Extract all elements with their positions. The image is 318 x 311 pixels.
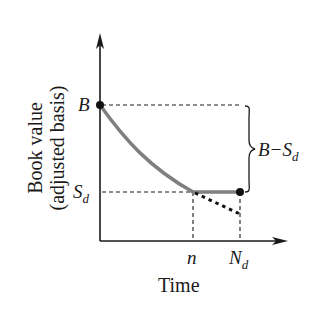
point-b: [96, 101, 104, 109]
y-tick-sd: Sd: [73, 181, 90, 206]
x-axis-label: Time: [158, 274, 200, 296]
point-nd: [236, 188, 244, 196]
brace-icon: [245, 106, 255, 192]
x-tick-n: n: [187, 247, 197, 268]
brace-label: B−Sd: [258, 139, 299, 164]
y-axis-label-line2: (adjusted basis): [46, 86, 69, 211]
continued-depreciation-line: [195, 193, 240, 214]
book-value-diagram: B Sd B−Sd n Nd Time Book value (adjusted…: [0, 0, 318, 311]
y-tick-b: B: [78, 94, 90, 115]
x-tick-nd: Nd: [228, 247, 249, 272]
book-value-curve: [100, 105, 240, 192]
y-axis-label-line1: Book value: [24, 102, 46, 194]
